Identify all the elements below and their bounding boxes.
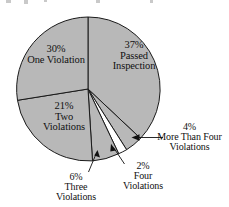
slice-name-one-violation: One Violation <box>17 55 95 66</box>
slice-label-more-than-four-violations: 4% More Than Four Violations <box>150 122 229 153</box>
slice-name-two-violations-line2: Violations <box>33 122 95 133</box>
slice-label-one-violation: 30% One Violation <box>17 44 95 65</box>
slice-name-four-violations-line2: Violations <box>113 181 173 191</box>
pie-chart-figure: 37% Passed Inspection 30% One Violation … <box>0 0 229 207</box>
slice-label-two-violations: 21% Two Violations <box>33 101 95 133</box>
slice-label-three-violations: 6% Three Violations <box>47 172 105 203</box>
slice-label-passed-inspection: 37% Passed Inspection <box>103 40 165 72</box>
slice-name-passed-inspection-line2: Inspection <box>103 61 165 72</box>
slice-name-three-violations-line2: Violations <box>47 192 105 202</box>
slice-name-more-than-four-violations-line2: Violations <box>150 142 229 152</box>
slice-label-four-violations: 2% Four Violations <box>113 161 173 192</box>
